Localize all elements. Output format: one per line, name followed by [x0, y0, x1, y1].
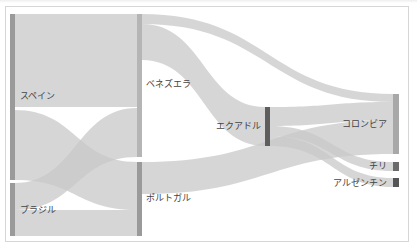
node-spain[interactable] — [10, 14, 15, 180]
label-ecuador: エクアドル — [216, 121, 261, 131]
label-chile: チリ — [369, 161, 387, 171]
node-portugal[interactable] — [137, 162, 142, 236]
node-brazil[interactable] — [10, 183, 15, 236]
node-chile[interactable] — [393, 162, 399, 171]
label-venezuela: ベネズエラ — [146, 79, 191, 89]
node-ecuador[interactable] — [265, 107, 270, 146]
node-argentina[interactable] — [393, 178, 399, 187]
label-spain: スペイン — [20, 91, 55, 101]
label-brazil: ブラジル — [20, 205, 56, 215]
label-colombia: コロンビア — [342, 119, 387, 129]
node-venezuela[interactable] — [137, 14, 142, 157]
label-portugal: ポルトガル — [146, 193, 191, 203]
node-colombia[interactable] — [393, 94, 399, 154]
label-argentina: アルゼンチン — [333, 178, 387, 188]
